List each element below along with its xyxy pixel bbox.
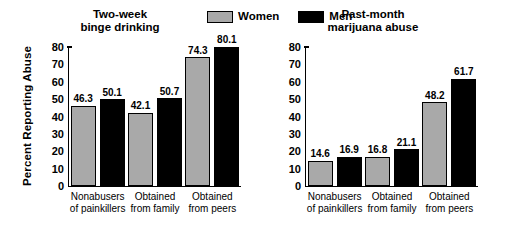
- bar-value-men: 16.9: [339, 145, 358, 155]
- plot-area-binge-drinking: 80 70 60 50 40 30 20 10 0 46.3 50.1: [68, 47, 241, 187]
- bar-value-women: 42.1: [131, 101, 150, 111]
- bar-wrap-women: 42.1: [128, 47, 153, 186]
- bar-wrap-men: 50.7: [157, 47, 182, 186]
- bar-men: [394, 149, 419, 186]
- bar-wrap-women: 46.3: [71, 47, 96, 186]
- bar-women: [128, 113, 153, 186]
- bar-groups: 46.3 50.1 42.1 50.7: [69, 47, 241, 186]
- figure: Percent Reporting Abuse Women Men Two-we…: [0, 0, 508, 233]
- x-label-obtained-from-peers: Obtained from peers: [184, 191, 241, 220]
- bar-groups: 14.6 16.9 16.8 21.1: [306, 47, 478, 186]
- bar-women: [365, 157, 390, 186]
- x-label-nonabusers: Nonabusers of painkillers: [69, 191, 126, 220]
- bar-women: [71, 106, 96, 186]
- y-tick-10: 10: [289, 163, 301, 174]
- bar-wrap-women: 74.3: [185, 47, 210, 186]
- y-tick-0: 0: [58, 181, 64, 192]
- bar-value-women: 46.3: [73, 94, 92, 104]
- panel-marijuana-abuse: Past-month marijuana abuse 80 70 60 50 4…: [236, 0, 486, 233]
- bar-wrap-women: 48.2: [422, 47, 447, 186]
- y-tick-60: 60: [52, 76, 64, 87]
- bar-value-women: 14.6: [310, 149, 329, 159]
- bar-value-men: 50.1: [102, 88, 121, 98]
- bar-wrap-men: 21.1: [394, 47, 419, 186]
- bar-value-men: 50.7: [160, 87, 179, 97]
- bar-wrap-women: 16.8: [365, 47, 390, 186]
- panel-title-binge-drinking: Two-week binge drinking: [0, 8, 245, 34]
- y-tick-70: 70: [289, 59, 301, 70]
- bar-value-men: 21.1: [397, 138, 416, 148]
- bar-value-men: 61.7: [454, 67, 473, 77]
- x-label-nonabusers: Nonabusers of painkillers: [306, 191, 363, 220]
- bar-wrap-men: 61.7: [451, 47, 476, 186]
- bar-group-nonabusers: 46.3 50.1: [71, 47, 125, 186]
- plot-area-marijuana-abuse: 80 70 60 50 40 30 20 10 0 14.6 16.9: [305, 47, 478, 187]
- y-tick-80: 80: [289, 42, 301, 53]
- bar-value-women: 48.2: [425, 91, 444, 101]
- bar-value-men: 80.1: [217, 35, 236, 45]
- bar-women: [185, 57, 210, 186]
- y-tick-40: 40: [289, 111, 301, 122]
- x-label-obtained-from-family: Obtained from family: [363, 191, 420, 220]
- bar-men: [337, 157, 362, 186]
- bar-group-obtained-from-peers: 74.3 80.1: [185, 47, 239, 186]
- bar-women: [308, 161, 333, 186]
- bar-group-nonabusers: 14.6 16.9: [308, 47, 362, 186]
- y-tick-0: 0: [295, 181, 301, 192]
- bar-group-obtained-from-peers: 48.2 61.7: [422, 47, 476, 186]
- bar-men: [451, 79, 476, 186]
- x-label-obtained-from-family: Obtained from family: [126, 191, 183, 220]
- y-tick-40: 40: [52, 111, 64, 122]
- x-axis-labels: Nonabusers of painkillers Obtained from …: [306, 186, 478, 220]
- y-tick-10: 10: [52, 163, 64, 174]
- panel-binge-drinking: Two-week binge drinking 80 70 60 50 40 3…: [0, 0, 250, 233]
- bar-value-women: 16.8: [368, 145, 387, 155]
- panel-title-marijuana-abuse: Past-month marijuana abuse: [248, 8, 498, 34]
- bar-women: [422, 102, 447, 186]
- bar-group-obtained-from-family: 42.1 50.7: [128, 47, 182, 186]
- bar-group-obtained-from-family: 16.8 21.1: [365, 47, 419, 186]
- y-tick-20: 20: [52, 146, 64, 157]
- bar-value-women: 74.3: [188, 46, 207, 56]
- y-tick-60: 60: [289, 76, 301, 87]
- y-tick-70: 70: [52, 59, 64, 70]
- bar-men: [157, 98, 182, 186]
- y-tick-30: 30: [52, 128, 64, 139]
- x-label-obtained-from-peers: Obtained from peers: [421, 191, 478, 220]
- x-axis-labels: Nonabusers of painkillers Obtained from …: [69, 186, 241, 220]
- bar-wrap-women: 14.6: [308, 47, 333, 186]
- y-tick-50: 50: [52, 94, 64, 105]
- y-tick-30: 30: [289, 128, 301, 139]
- y-tick-50: 50: [289, 94, 301, 105]
- y-tick-80: 80: [52, 42, 64, 53]
- bar-men: [100, 99, 125, 186]
- bar-wrap-men: 16.9: [337, 47, 362, 186]
- bar-wrap-men: 50.1: [100, 47, 125, 186]
- y-tick-20: 20: [289, 146, 301, 157]
